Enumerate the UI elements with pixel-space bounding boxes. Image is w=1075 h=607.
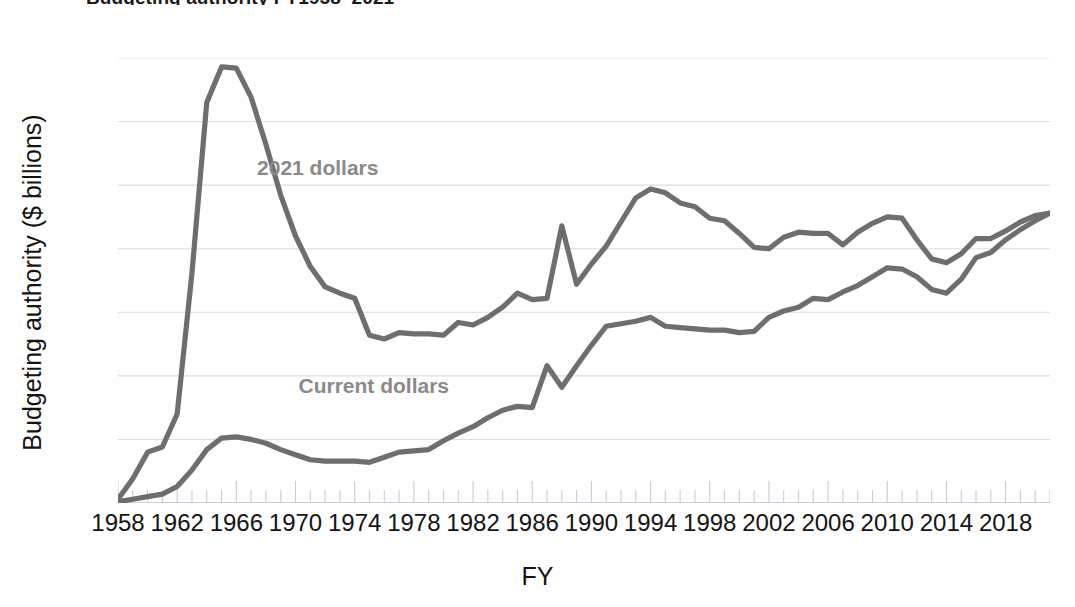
x-tick-label: 2018 [961, 509, 1051, 537]
data-series-lines [118, 67, 1050, 502]
clipped-title: Budgeting authority FY1958–2021 [0, 0, 1075, 5]
plot-area [118, 58, 1050, 503]
series-line-current-dollars [118, 213, 1050, 502]
x-axis-title: FY [0, 562, 1075, 591]
series-annotation: 2021 dollars [257, 156, 378, 180]
series-annotation: Current dollars [298, 374, 449, 398]
y-axis-title: Budgeting authority ($ billions) [18, 33, 47, 533]
chart-page: Budgeting authority FY1958–2021 Budgetin… [0, 0, 1075, 607]
line-chart-svg [118, 58, 1050, 503]
series-line-constant-dollars [118, 67, 1050, 499]
x-axis-ticks [118, 481, 1050, 503]
